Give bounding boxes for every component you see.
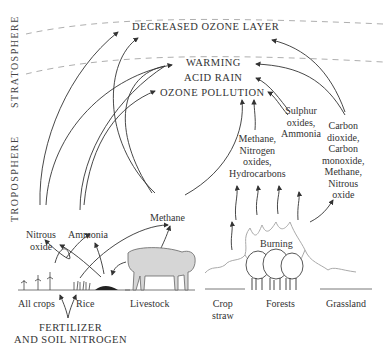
- gas-sulphur-ammonia: Sulphur oxides, Ammonia: [281, 105, 321, 140]
- troposphere-label: TROPOSPHERE: [9, 135, 20, 222]
- arrow-fert-rice: [68, 295, 76, 318]
- crop-plants-icon: [21, 272, 53, 290]
- source-crop-straw: Crop straw: [212, 298, 234, 321]
- effect-acid-rain: ACID RAIN: [184, 72, 242, 84]
- gas-carbon-compounds: Carbon dioxide, Carbon monoxide, Methane…: [322, 120, 365, 201]
- arrow-rice-ammonia: [95, 243, 104, 274]
- source-rice: Rice: [76, 298, 94, 310]
- arrow-nitrous-to-warming: [46, 65, 172, 205]
- arrow-straw: [231, 222, 232, 250]
- stratosphere-label: STRATOSPHERE: [9, 15, 20, 108]
- burning-label: Burning: [260, 238, 293, 250]
- effect-warming: WARMING: [186, 57, 241, 69]
- gas-nitrous-oxide: Nitrous oxide: [26, 229, 56, 252]
- arrow-to-ozone-pollution: [84, 91, 155, 205]
- rice-plants-icon: [74, 281, 90, 290]
- arrow-burning-3: [277, 186, 279, 214]
- manure-icon: [95, 286, 118, 290]
- source-grassland: Grassland: [326, 298, 366, 310]
- gas-ammonia: Ammonia: [68, 229, 108, 241]
- arrow-ammonia-to-acid-rain: [80, 66, 165, 210]
- arrow-fert-crops: [60, 295, 68, 318]
- effect-ozone-pollution: OZONE POLLUTION: [160, 87, 265, 99]
- arrow-burning-carbon: [310, 200, 333, 222]
- cow-icon: [128, 248, 195, 290]
- gas-methane: Methane: [150, 212, 185, 224]
- arrow-burning-2: [256, 186, 258, 215]
- arrow-carbon-to-ozone-layer: [272, 40, 345, 112]
- gas-methane-nox-hydrocarbons: Methane, Nitrogen oxides, Hydrocarbons: [229, 133, 286, 179]
- trees-icon: [246, 249, 303, 290]
- arrow-nitrous-to-ozone-layer: [40, 32, 118, 205]
- arrow-burning-4: [298, 192, 299, 220]
- source-all-crops: All crops: [18, 298, 55, 310]
- arrow-nox-to-ozone-pollution: [254, 100, 255, 130]
- arrow-manure: [112, 262, 126, 275]
- arrow-burning-1: [235, 186, 237, 220]
- source-forests: Forests: [266, 298, 295, 310]
- source-livestock: Livestock: [130, 298, 169, 310]
- fertilizer-label: FERTILIZER AND SOIL NITROGEN: [14, 322, 127, 346]
- effect-decreased-ozone-layer: DECREASED OZONE LAYER: [132, 21, 279, 33]
- arrow-methane-to-warming: [125, 66, 165, 193]
- arrow-livestock-methane: [160, 226, 170, 250]
